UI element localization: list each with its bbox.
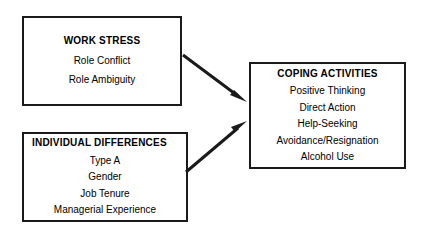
node-item: Gender [29,171,181,184]
node-item: Managerial Experience [29,204,181,217]
node-item: Role Conflict [30,55,174,68]
node-coping-activities-title: COPING ACTIVITIES [255,68,400,81]
arrow-work-stress-to-coping [183,55,247,102]
node-item: Positive Thinking [255,85,400,98]
node-item: Job Tenure [29,188,181,201]
node-item: Avoidance/Resignation [255,135,400,148]
node-item: Type A [29,155,181,168]
node-item: Role Ambiguity [30,74,174,87]
node-individual-differences-title: INDIVIDUAL DIFFERENCES [29,137,181,150]
diagram-canvas: WORK STRESS Role Conflict Role Ambiguity… [0,0,428,236]
node-item: Help-Seeking [255,118,400,131]
node-individual-differences[interactable]: INDIVIDUAL DIFFERENCES Type A Gender Job… [22,132,188,222]
node-item: Direct Action [255,102,400,115]
node-individual-differences-items: Type A Gender Job Tenure Managerial Expe… [29,155,181,217]
node-item: Alcohol Use [255,151,400,164]
node-work-stress[interactable]: WORK STRESS Role Conflict Role Ambiguity [22,16,182,106]
node-work-stress-items: Role Conflict Role Ambiguity [30,55,174,87]
arrow-individual-differences-to-coping [186,121,247,172]
node-coping-activities-items: Positive Thinking Direct Action Help-See… [255,85,400,164]
node-coping-activities[interactable]: COPING ACTIVITIES Positive Thinking Dire… [249,62,406,169]
node-work-stress-title: WORK STRESS [30,35,174,48]
